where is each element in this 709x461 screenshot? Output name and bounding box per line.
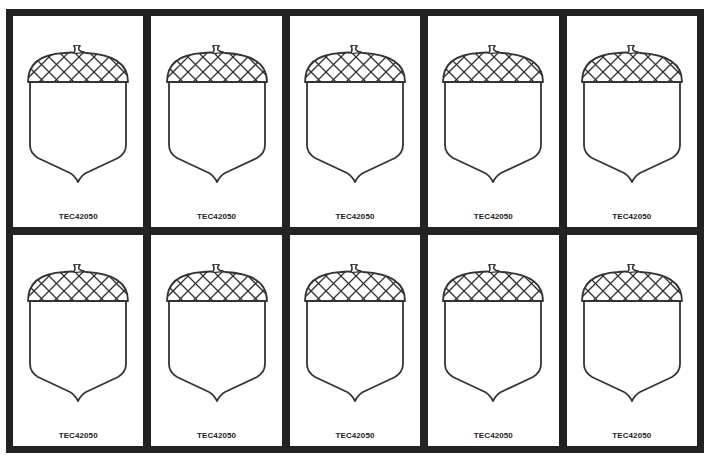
product-code-label: TEC42050 [151,212,281,221]
product-code-label: TEC42050 [290,431,420,440]
acorn-icon [163,264,271,404]
acorn-icon [301,45,409,185]
product-code-label: TEC42050 [567,212,697,221]
card-sheet-frame: TEC42050 [6,9,704,453]
card-grid: TEC42050 [13,16,697,446]
product-code-label: TEC42050 [428,431,558,440]
acorn-icon [301,264,409,404]
product-code-label: TEC42050 [13,431,143,440]
acorn-icon [439,264,547,404]
product-code-label: TEC42050 [567,431,697,440]
acorn-icon [578,264,686,404]
acorn-card-9: TEC42050 [428,235,558,446]
acorn-card-10: TEC42050 [567,235,697,446]
acorn-card-1: TEC42050 [13,16,143,227]
acorn-icon [24,264,132,404]
product-code-label: TEC42050 [428,212,558,221]
acorn-card-5: TEC42050 [567,16,697,227]
acorn-card-6: TEC42050 [13,235,143,446]
acorn-icon [578,45,686,185]
acorn-icon [163,45,271,185]
product-code-label: TEC42050 [290,212,420,221]
acorn-card-7: TEC42050 [151,235,281,446]
acorn-icon [439,45,547,185]
product-code-label: TEC42050 [13,212,143,221]
acorn-card-4: TEC42050 [428,16,558,227]
acorn-icon [24,45,132,185]
product-code-label: TEC42050 [151,431,281,440]
acorn-card-8: TEC42050 [290,235,420,446]
acorn-card-3: TEC42050 [290,16,420,227]
acorn-card-2: TEC42050 [151,16,281,227]
